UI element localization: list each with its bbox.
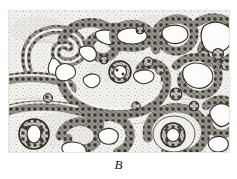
figure-root: B bbox=[0, 0, 237, 179]
micrograph-image bbox=[8, 10, 230, 153]
micrograph-svg bbox=[8, 10, 230, 153]
gland-central-round bbox=[109, 61, 131, 83]
gland-lower-left-round bbox=[19, 119, 49, 149]
gland-upper-mid-right bbox=[113, 24, 151, 48]
figure-panel-label: B bbox=[0, 158, 237, 172]
